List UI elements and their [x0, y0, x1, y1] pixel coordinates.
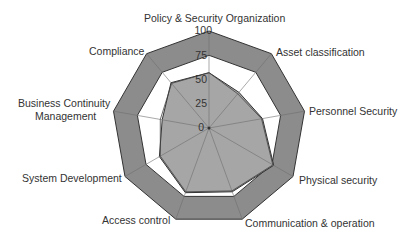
tick-label-0: 0: [182, 122, 204, 133]
axis-label-access-control: Access control: [102, 214, 170, 226]
axis-label-communication-operation: Communication & operation: [245, 217, 375, 229]
tick-label-50: 50: [185, 74, 207, 85]
axis-label-physical-security: Physical security: [299, 174, 377, 186]
axis-label-system-development: System Development: [22, 172, 122, 184]
tick-label-100: 100: [190, 25, 212, 36]
tick-label-75: 75: [185, 50, 207, 61]
axis-label-asset-classification: Asset classification: [276, 46, 365, 58]
axis-label-compliance: Compliance: [89, 45, 144, 57]
axis-label-business-continuity: Business Continuity: [18, 97, 110, 109]
axis-label-policy: Policy & Security Organization: [144, 12, 285, 24]
axis-label-business-continuity-management: Management: [35, 110, 96, 122]
axis-label-personnel-security: Personnel Security: [309, 105, 397, 117]
tick-label-25: 25: [185, 98, 207, 109]
center-point: [208, 127, 211, 130]
